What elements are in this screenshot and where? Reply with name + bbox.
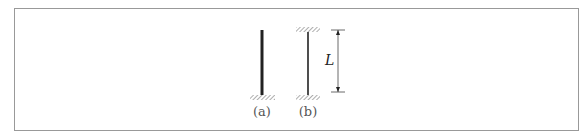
length-symbol: L <box>325 52 334 68</box>
label-b: (b) <box>299 104 317 119</box>
top-support-b <box>296 27 320 32</box>
ground-support-b <box>296 95 320 100</box>
column-diagram <box>0 0 588 139</box>
column-b <box>296 27 320 100</box>
column-a <box>250 30 275 100</box>
label-a: (a) <box>253 104 271 119</box>
ground-support-a <box>250 95 275 100</box>
